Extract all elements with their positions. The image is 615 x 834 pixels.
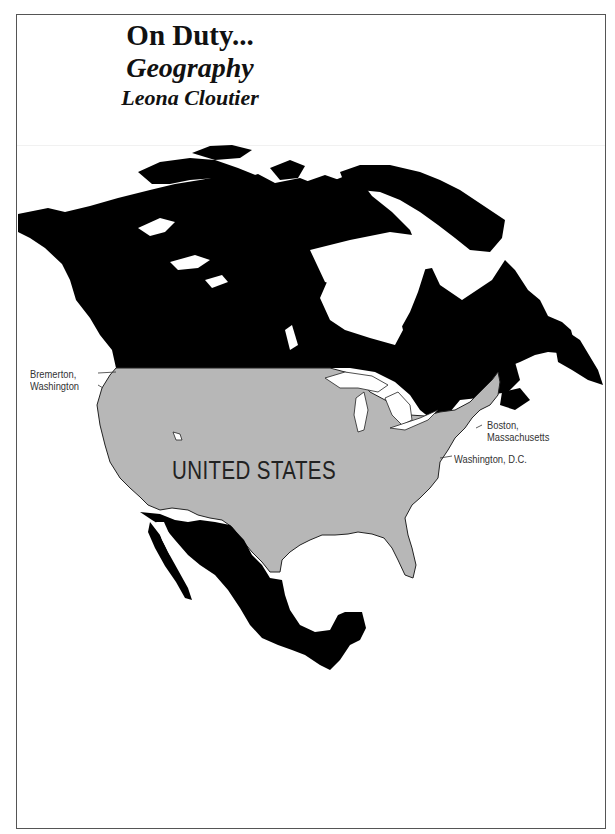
location-label-bremerton: Bremerton, Washington (30, 368, 79, 392)
north-america-map (0, 0, 615, 834)
location-label-washington-dc: Washington, D.C. (454, 453, 527, 465)
location-name: Washington, D.C. (454, 453, 527, 465)
location-state: Massachusetts (487, 431, 549, 443)
location-name: Boston, (487, 419, 549, 431)
country-label-united-states: UNITED STATES (172, 456, 336, 485)
location-label-boston: Boston, Massachusetts (487, 419, 549, 443)
location-name: Bremerton, (30, 368, 79, 380)
location-state: Washington (30, 380, 79, 392)
